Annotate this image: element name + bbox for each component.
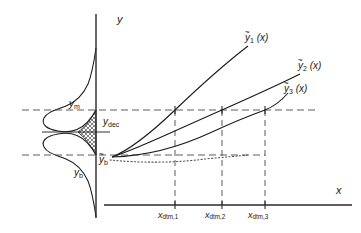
label-y-m-sub: m (74, 103, 80, 110)
label-yhat1-arg: (x) (257, 32, 269, 43)
label-yhat2-arg: (x) (310, 60, 322, 71)
x-axis-label: x (336, 185, 342, 196)
label-yhat1-base: ~y (245, 33, 250, 43)
tilde-accent-icon: ~ (245, 29, 250, 37)
label-y-m: ym (69, 99, 80, 110)
label-y-dec-sub: dec (108, 121, 119, 128)
gaussian-curve-yb (43, 133, 96, 217)
xtick-label-1: xdtm,1 (158, 211, 178, 221)
label-yhat3-arg: (x) (296, 83, 308, 94)
xtick-label-1-sub: dtm,1 (163, 213, 179, 220)
label-curve-yhat1: ~y1 (x) (245, 33, 268, 44)
xtick-label-2: xdtm,2 (205, 211, 225, 221)
label-y-b-hat-sub: b (104, 159, 108, 166)
label-y-b: yb (74, 168, 83, 179)
diagram-svg (0, 0, 361, 233)
label-curve-yhat2: ~y2 (x) (298, 61, 321, 72)
gaussian-curve-ym (43, 48, 96, 132)
label-y-b-hat: ~yb (99, 155, 108, 166)
figure-canvas: y x ym ydec yb ~yb ~y1 (x) ~y2 (x) ~y3 (… (0, 0, 361, 233)
label-y-b-sub: b (79, 172, 83, 179)
label-y-b-hat-base: ~y (99, 155, 104, 165)
xtick-label-3: xdtm,3 (248, 211, 268, 221)
tilde-accent-icon: ~ (298, 57, 303, 65)
label-curve-yhat3: ~y3 (x) (284, 84, 307, 95)
y-axis-label: y (117, 14, 123, 25)
decision-overlap-region (78, 110, 96, 155)
curve-yhat2 (112, 74, 300, 157)
label-yhat3-base: ~y (284, 84, 289, 94)
xtick-label-2-sub: dtm,2 (210, 213, 226, 220)
curve-yhat1 (112, 46, 248, 157)
tilde-accent-icon: ~ (284, 80, 289, 88)
xtick-label-3-sub: dtm,3 (253, 213, 269, 220)
tilde-accent-icon: ~ (99, 151, 104, 159)
label-y-dec: ydec (103, 117, 119, 128)
label-yhat2-base: ~y (298, 61, 303, 71)
